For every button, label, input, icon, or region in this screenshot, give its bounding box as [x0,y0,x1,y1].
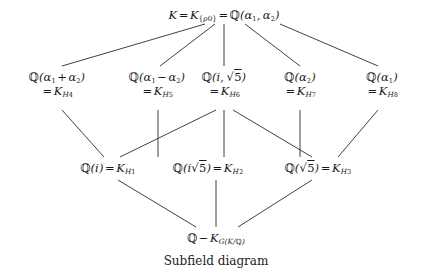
node-h7-field: ℚ(α2) =KH7 [284,70,316,98]
node-h5-field: ℚ(α1−α2) =KH5 [129,70,185,98]
node-bottom-rationals: ℚ [187,231,197,245]
node-h4-field-expression: ℚ(α1+α2) [29,70,85,84]
node-h8-fixed-field: =KH8 [366,84,398,98]
node-top-fixed-field-K: K [190,8,199,22]
edge-h4-to-h1 [62,110,104,157]
node-h3-field: ℚ(√5)=KH3 [285,161,352,175]
node-h4-field: ℚ(α1+α2) =KH4 [29,70,85,98]
edge-h3-to-q [238,180,312,227]
node-h8-field-expression: ℚ(α1) [366,70,397,84]
node-top-symbol: K [168,8,177,22]
node-h3-generator: (√5) [295,161,319,175]
node-bottom-field-Q: ℚ−KG(K/ℚ) [187,231,245,245]
node-bottom-fixed-field: K [210,231,219,245]
edge-h6-to-h1 [120,110,216,157]
node-h2-equals: = [211,161,224,175]
node-top-generators: (α1, α2) [240,8,280,22]
edge-k-to-h7 [245,24,300,66]
diagram-caption: Subfield diagram [164,254,269,268]
node-top-rationals: ℚ [230,8,240,22]
node-top-equals-1: = [177,8,190,22]
edge-h8-to-h3 [338,110,378,157]
node-h8-field: ℚ(α1) =KH8 [366,70,398,98]
node-h1-generator: (i) [91,161,104,175]
node-h6-field-expression: ℚ(i, √5) [202,70,246,84]
node-h5-fixed-field: =KH5 [129,84,185,98]
node-h2-subgroup: H2 [233,167,244,176]
node-h1-subgroup: H1 [125,167,136,176]
node-top-equals-2: = [217,8,230,22]
node-bottom-separator: − [197,231,210,245]
node-bottom-galois-group: G(K/ℚ) [219,237,245,246]
node-h1-field: ℚ(i)=KH1 [80,161,135,175]
edge-k-to-h8 [280,24,378,66]
node-h3-subgroup: H3 [341,167,352,176]
node-h1-equals: = [103,161,116,175]
node-h2-fixed-field: K [224,161,233,175]
node-h7-fixed-field: =KH7 [284,84,316,98]
edge-k-to-h5 [160,24,215,66]
node-h1-fixed-field: K [116,161,125,175]
node-h6-fixed-field: =KH6 [202,84,246,98]
node-h5-field-expression: ℚ(α1−α2) [129,70,185,84]
edge-h1-to-q [118,180,196,227]
node-h2-rationals: ℚ [173,161,183,175]
node-h3-fixed-field: K [332,161,341,175]
node-h3-equals: = [319,161,332,175]
node-h6-field: ℚ(i, √5) =KH6 [202,70,246,98]
node-h1-rationals: ℚ [80,161,90,175]
node-h4-fixed-field: =KH4 [29,84,85,98]
node-h2-field: ℚ(i√5)=KH2 [173,161,243,175]
node-top-field-K: K=K{ρ0}=ℚ(α1, α2) [168,8,279,22]
node-top-subscript-rho: {ρ0} [199,14,217,23]
subfield-diagram: K=K{ρ0}=ℚ(α1, α2) ℚ(α1+α2) =KH4 ℚ(α1−α2)… [0,0,432,278]
node-h7-field-expression: ℚ(α2) [284,70,315,84]
node-h2-generator: (i√5) [183,161,211,175]
node-h3-rationals: ℚ [285,161,295,175]
edge-k-to-h4 [62,24,205,66]
